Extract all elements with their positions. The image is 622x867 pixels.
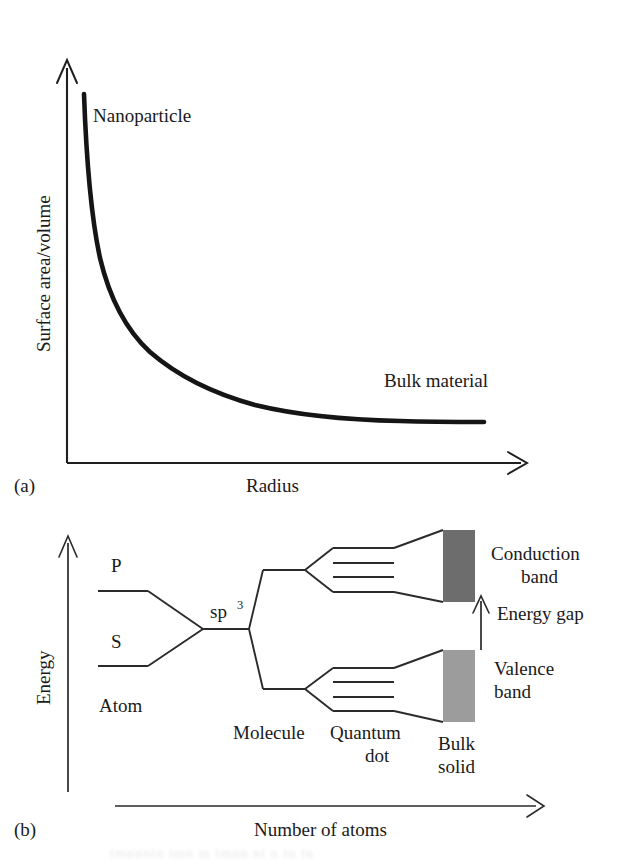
qd-upper-to-band-top — [394, 530, 443, 548]
quantum-dot-fan-upper — [305, 530, 443, 602]
energy-gap-arrow — [473, 596, 489, 650]
label-sp3-superscript: 3 — [237, 598, 243, 612]
panel-a-tag: (a) — [14, 475, 35, 497]
label-sp3-level: sp 3 — [210, 598, 243, 622]
stage-label-bulk-solid-line1: Bulk — [438, 733, 475, 754]
connector-sp3-to-molecule-upper — [249, 570, 263, 629]
qd-lower-fan-bottom-edge — [305, 689, 333, 711]
qd-upper-to-band-bottom — [394, 592, 443, 602]
label-sp3-base: sp — [210, 601, 227, 622]
valence-band-label-line1: Valence — [494, 658, 554, 679]
qd-lower-to-band-top — [394, 650, 443, 668]
conduction-band-rect — [443, 530, 475, 602]
scientific-figure-svg: Nanoparticle Bulk material Surface area/… — [0, 0, 622, 867]
panel-b-tag: (b) — [14, 819, 36, 841]
stage-label-molecule: Molecule — [233, 722, 305, 743]
stage-label-quantum-dot-line2: dot — [365, 745, 390, 766]
annotation-bulk-material: Bulk material — [384, 370, 488, 391]
panel-b-x-axis — [115, 795, 544, 817]
valence-band-label-line2: band — [494, 681, 531, 702]
label-s-level: S — [111, 631, 122, 652]
stage-label-quantum-dot: Quantum dot — [330, 722, 401, 766]
panel-a-y-axis-label: Surface area/volume — [33, 195, 54, 352]
energy-gap-label: Energy gap — [497, 603, 584, 624]
valence-band-label: Valence band — [494, 658, 554, 702]
annotation-nanoparticle: Nanoparticle — [93, 105, 191, 126]
qd-upper-fan-bottom-edge — [305, 570, 333, 592]
connector-p-to-sp3 — [148, 591, 203, 629]
stage-label-bulk-solid: Bulk solid — [438, 733, 475, 777]
qd-upper-fan-top-edge — [305, 548, 333, 570]
conduction-band-label-line1: Conduction — [491, 543, 580, 564]
quantum-dot-fan-lower — [305, 650, 443, 722]
connector-s-to-sp3 — [148, 629, 203, 666]
label-p-level: P — [111, 555, 122, 576]
panel-b-x-axis-label: Number of atoms — [254, 819, 387, 840]
panel-a: Nanoparticle Bulk material Surface area/… — [14, 60, 527, 497]
panel-a-x-axis — [67, 452, 527, 474]
figure-root: Nanoparticle Bulk material Surface area/… — [0, 0, 622, 867]
qd-lower-fan-top-edge — [305, 668, 333, 689]
stage-label-bulk-solid-line2: solid — [438, 756, 475, 777]
panel-b-y-axis — [59, 536, 77, 792]
panel-a-y-axis — [57, 60, 77, 463]
connector-sp3-to-molecule-lower — [249, 629, 263, 689]
conduction-band-label: Conduction band — [491, 543, 580, 587]
panel-b-y-axis-label: Energy — [33, 650, 54, 705]
stage-label-atom: Atom — [99, 695, 143, 716]
conduction-band-label-line2: band — [521, 566, 558, 587]
stage-label-quantum-dot-line1: Quantum — [330, 722, 401, 743]
qd-lower-to-band-bottom — [394, 711, 443, 722]
valence-band-rect — [443, 650, 475, 722]
panel-b: P S sp 3 Atom Molecule Quantum dot Bulk … — [14, 530, 584, 841]
panel-a-x-axis-label: Radius — [246, 475, 299, 496]
bottom-cropped-caption-text: tmnnntn tmn m tmnn nt n tn tn — [110, 846, 530, 862]
